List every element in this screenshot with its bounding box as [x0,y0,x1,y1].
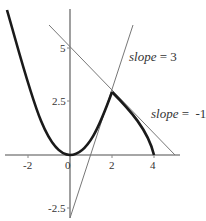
curve-parabola [7,10,112,155]
x-tick-label: 2 [109,159,115,171]
x-tick-label: -2 [23,159,32,171]
annotation-slope-3: slope = 3 [129,49,177,64]
y-tick-label: 5 [60,42,66,54]
x-tick-label: 0 [65,159,71,171]
x-tick-label: 4 [150,159,156,171]
figure: -2 0 2 4 5 2.5 -2.5 slope = 3 slope = -1 [0,0,206,221]
y-ticks: 5 2.5 -2.5 [48,42,70,214]
y-tick-label: 2.5 [52,95,66,107]
y-tick-label: -2.5 [48,202,66,214]
annotation-slope-neg1: slope = -1 [151,106,206,121]
curve-right-branch [112,92,154,155]
plot-canvas: -2 0 2 4 5 2.5 -2.5 slope = 3 slope = -1 [0,0,206,221]
